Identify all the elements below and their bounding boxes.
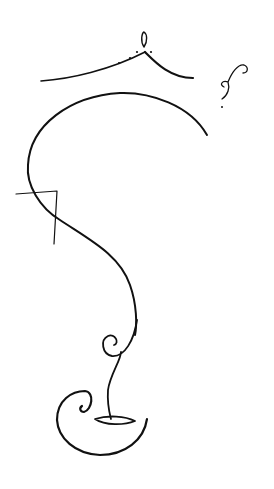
crown-arc-left — [41, 52, 145, 81]
crown-arc-right — [145, 52, 193, 78]
dot-swirl — [221, 106, 223, 108]
spiral-upper — [103, 320, 137, 419]
dot-crown-2 — [129, 57, 131, 59]
dot-crown-1 — [118, 62, 120, 64]
drawing-svg — [0, 0, 274, 489]
dot-crown-4 — [150, 51, 152, 53]
crown-leaf — [142, 32, 147, 47]
swirl-top-right — [221, 65, 247, 99]
lips — [95, 417, 135, 425]
line-art-drawing — [0, 0, 274, 489]
angle-line — [16, 191, 57, 244]
main-s-curve — [28, 93, 207, 335]
dot-crown-3 — [136, 51, 138, 53]
